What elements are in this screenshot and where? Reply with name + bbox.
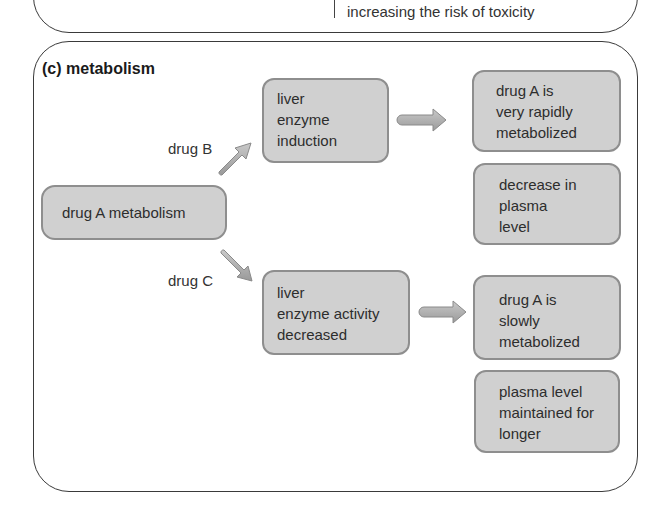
- arrow-right-top-icon: [397, 109, 446, 131]
- arrows-layer: [0, 0, 652, 512]
- arrow-down-right-icon: [221, 250, 252, 281]
- arrow-right-bottom-icon: [419, 301, 466, 323]
- arrow-up-right-icon: [219, 143, 251, 175]
